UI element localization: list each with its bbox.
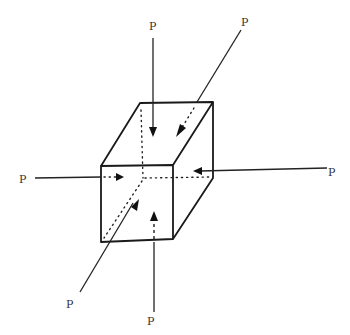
cube-compression-diagram: P P P P P P: [0, 0, 350, 335]
force-label-bottom: P: [147, 315, 155, 328]
force-top: P: [149, 20, 157, 137]
force-right: P: [193, 166, 336, 179]
force-label-bottom-left: P: [66, 298, 74, 311]
force-bottom: P: [147, 211, 158, 328]
arrow-left-icon: [193, 167, 202, 175]
arrow-up-icon: [150, 211, 158, 221]
cube-top-face: [101, 102, 213, 166]
arrow-right-icon: [116, 173, 124, 181]
force-label-right: P: [328, 166, 336, 179]
force-left: P: [19, 173, 124, 186]
arrow-down-icon: [149, 127, 157, 137]
force-bottom-left-oblique: P: [66, 199, 139, 311]
force-label-top-right: P: [241, 16, 249, 29]
force-label-top: P: [149, 20, 157, 33]
arrow-diagonal-icon: [176, 124, 186, 137]
force-label-left: P: [19, 173, 27, 186]
